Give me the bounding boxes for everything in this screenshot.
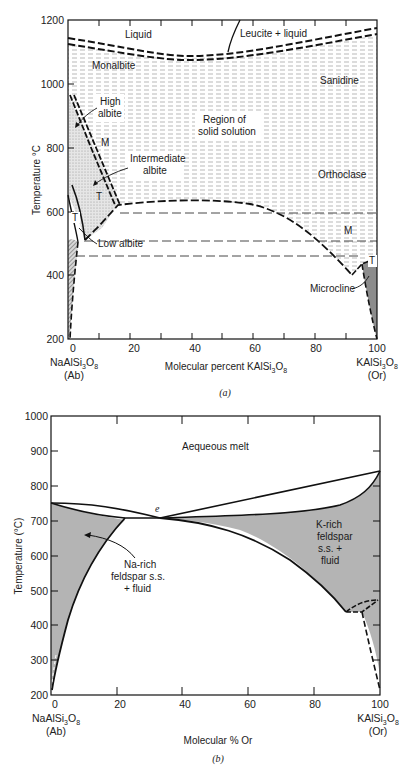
- x-tick-40: 40: [189, 342, 201, 354]
- y-tick-1200: 1200: [41, 14, 65, 26]
- left-endmember-abbr-b: (Ab): [46, 725, 66, 737]
- y-tick-300-b: 300: [30, 654, 48, 666]
- y-axis-title-b: Temperature (°C): [13, 518, 24, 595]
- label-intermediate-albite: albite: [143, 165, 167, 176]
- right-endmember-abbr-b: (Or): [369, 725, 388, 737]
- label-sanidine: Sanidine: [320, 75, 359, 86]
- x-tick-40-b: 40: [179, 698, 191, 710]
- label-k-rich-3: s.s. +: [318, 543, 342, 554]
- label-microcline: Microcline: [310, 283, 355, 294]
- y-tick-600-b: 600: [30, 550, 48, 562]
- label-high-albite-1: High: [100, 96, 121, 107]
- caption-b: (b): [212, 753, 224, 765]
- right-endmember-abbr-a: (Or): [368, 369, 387, 381]
- label-liquid: Liquid: [125, 29, 152, 40]
- left-endmember-formula-a: NaAlSi3O8: [50, 356, 98, 370]
- y-tick-400: 400: [46, 269, 64, 281]
- y-tick-800: 800: [46, 142, 64, 154]
- label-na-rich-2: feldspar s.s.: [111, 571, 165, 582]
- label-solid-solution: solid solution: [198, 126, 256, 137]
- x-tick-20: 20: [128, 342, 140, 354]
- figure-b: 1000 900 800 700 600 500 400 300 200 0 2…: [13, 410, 399, 765]
- label-k-rich-1: K-rich: [316, 519, 342, 530]
- y-tick-400-b: 400: [30, 619, 48, 631]
- left-endmember-abbr-a: (Ab): [64, 369, 84, 381]
- caption-a: (a): [219, 387, 231, 399]
- right-endmember-formula-b: KAlSi3O8: [357, 712, 399, 726]
- y-tick-600: 600: [46, 206, 64, 218]
- right-endmember-formula-a: KAlSi3O8: [356, 356, 398, 370]
- y-tick-700-b: 700: [30, 515, 48, 527]
- y-tick-900-b: 900: [30, 445, 48, 457]
- label-high-albite-2: albite: [98, 108, 122, 119]
- y-tick-1000: 1000: [41, 78, 65, 90]
- x-tick-100-b: 100: [371, 698, 389, 710]
- label-low-albite: Low albite: [98, 238, 143, 249]
- label-k-rich-4: fluid: [321, 555, 339, 566]
- x-tick-0: 0: [70, 342, 76, 354]
- y-tick-200-b: 200: [30, 689, 48, 701]
- label-monalbite: Monalbite: [92, 60, 136, 71]
- y-axis-title-a: Temperature °C: [31, 145, 42, 215]
- left-endmember-formula-b: NaAlSi3O8: [32, 712, 80, 726]
- label-eutectic: e: [155, 503, 160, 514]
- label-region-of: Region of: [203, 114, 246, 125]
- label-leucite-liquid: Leucite + liquid: [240, 28, 307, 39]
- label-m-right: M: [344, 225, 352, 236]
- x-axis-title-b: Molecular % Or: [184, 735, 254, 746]
- y-tick-200: 200: [46, 333, 64, 345]
- y-tick-800-b: 800: [30, 480, 48, 492]
- label-aqueous-melt: Aequeous melt: [182, 441, 249, 452]
- x-tick-60: 60: [249, 342, 261, 354]
- x-tick-20-b: 20: [114, 698, 126, 710]
- x-axis-title-a: Molecular percent KAlSi3O8: [165, 361, 287, 374]
- label-na-rich-1: Na-rich: [124, 559, 156, 570]
- y-tick-1000-b: 1000: [25, 410, 49, 422]
- x-tick-80: 80: [310, 342, 322, 354]
- label-m-left: M: [101, 137, 109, 148]
- x-tick-100: 100: [368, 342, 386, 354]
- x-tick-0-b: 0: [52, 698, 58, 710]
- label-orthoclase: Orthoclase: [318, 169, 367, 180]
- label-k-rich-2: feldspar: [317, 531, 353, 542]
- y-tick-500-b: 500: [30, 585, 48, 597]
- label-t-left: T: [72, 212, 78, 223]
- label-t-right: T: [369, 255, 375, 266]
- x-tick-60-b: 60: [244, 698, 256, 710]
- leucite-boundary: [228, 20, 240, 52]
- figure-canvas: 1200 1000 800 600 400 200 0 20 40 60 80 …: [0, 0, 414, 782]
- figure-a: 1200 1000 800 600 400 200 0 20 40 60 80 …: [31, 14, 398, 399]
- label-t-mid: T: [96, 191, 102, 202]
- x-tick-80-b: 80: [309, 698, 321, 710]
- label-intermediate: Intermediate: [130, 153, 186, 164]
- label-na-rich-3: + fluid: [124, 583, 151, 594]
